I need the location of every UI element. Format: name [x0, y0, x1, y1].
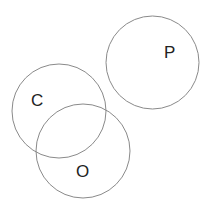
- venn-diagram: P C O: [0, 0, 206, 206]
- label-c: C: [31, 91, 43, 110]
- label-p: P: [164, 43, 175, 62]
- circle-p: [106, 16, 199, 109]
- set-p: P: [106, 16, 199, 109]
- label-o: O: [76, 162, 89, 181]
